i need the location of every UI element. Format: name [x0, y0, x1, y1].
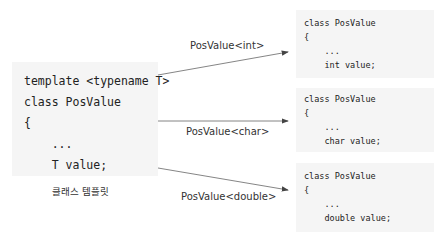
code-line: int value; [304, 60, 376, 70]
code-line: ... [304, 122, 340, 132]
arrow-double [158, 168, 288, 190]
arrow-label-int: PosValue<int> [190, 40, 264, 51]
arrow-label-double: PosValue<double> [181, 191, 276, 202]
code-line: { [304, 108, 309, 118]
template-caption: 클래스 템플릿 [52, 184, 109, 198]
arrow-label-char: PosValue<char> [186, 126, 269, 137]
code-line: class PosValue [304, 171, 376, 181]
instance-box-char: class PosValue { ... char value; [296, 88, 434, 152]
code-line: double value; [304, 213, 391, 223]
instance-box-int: class PosValue { ... int value; [296, 10, 434, 78]
arrow-int [158, 52, 288, 75]
code-line: class PosValue [304, 18, 376, 28]
code-line: class PosValue [24, 95, 121, 109]
code-line: template <typename T> [24, 74, 169, 88]
code-line: { [24, 116, 31, 130]
instance-box-double: class PosValue { ... double value; [296, 163, 434, 232]
code-line: { [304, 32, 309, 42]
code-line: ... [304, 199, 340, 209]
class-template-box: template <typename T> class PosValue { .… [12, 62, 158, 176]
code-line: char value; [304, 136, 381, 146]
code-line: T value; [24, 158, 107, 172]
code-line: ... [304, 46, 340, 56]
code-line: class PosValue [304, 94, 376, 104]
code-line: ... [24, 137, 72, 151]
code-line: { [304, 185, 309, 195]
